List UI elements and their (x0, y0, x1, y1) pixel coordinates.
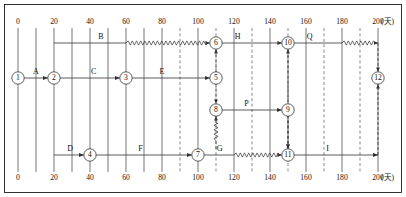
tick-label-bottom-180: 180 (336, 173, 348, 182)
activity-label-Q: Q (307, 32, 313, 41)
tick-label-top-140: 140 (264, 17, 276, 26)
tick-label-top-100: 100 (192, 17, 204, 26)
tick-label-bottom-60: 60 (122, 173, 130, 182)
network-diagram-canvas: 020406080100120140160180200 020406080100… (0, 0, 406, 197)
event-node-10[interactable]: 10 (282, 37, 294, 49)
activity-label-I: I (326, 144, 329, 153)
axis-unit-label-bottom: (天) (381, 173, 395, 182)
axis-tick-labels-bottom: 020406080100120140160180200 (16, 173, 384, 182)
activity-label-B: B (98, 32, 103, 41)
tick-label-top-80: 80 (158, 17, 166, 26)
tick-label-top-0: 0 (16, 17, 20, 26)
event-node-label-1: 1 (16, 73, 20, 82)
float-wave-B (126, 41, 207, 45)
tick-label-bottom-40: 40 (86, 173, 94, 182)
event-node-2[interactable]: 2 (48, 72, 60, 84)
event-node-9[interactable]: 9 (282, 104, 294, 116)
event-node-label-4: 4 (88, 150, 92, 159)
time-scaled-network-diagram: 020406080100120140160180200 020406080100… (0, 0, 406, 197)
event-node-12[interactable]: 12 (372, 72, 384, 84)
event-node-label-8: 8 (214, 105, 218, 114)
activity-label-E: E (160, 67, 165, 76)
float-wave-Q (342, 41, 376, 45)
activity-label-G: G (217, 144, 223, 153)
event-node-label-5: 5 (214, 73, 218, 82)
tick-label-bottom-100: 100 (192, 173, 204, 182)
event-node-label-2: 2 (52, 73, 56, 82)
tick-label-bottom-160: 160 (300, 173, 312, 182)
activity-label-P: P (244, 99, 249, 108)
event-node-label-9: 9 (286, 105, 290, 114)
event-node-6[interactable]: 6 (210, 37, 222, 49)
event-node-3[interactable]: 3 (120, 72, 132, 84)
event-node-1[interactable]: 1 (12, 72, 24, 84)
tick-label-bottom-80: 80 (158, 173, 166, 182)
tick-label-bottom-120: 120 (228, 173, 240, 182)
tick-label-bottom-20: 20 (50, 173, 58, 182)
event-node-label-3: 3 (124, 73, 128, 82)
tick-label-top-20: 20 (50, 17, 58, 26)
event-node-label-7: 7 (196, 150, 200, 159)
activity-label-F: F (138, 144, 143, 153)
activity-label-C: C (91, 67, 96, 76)
tick-label-top-120: 120 (228, 17, 240, 26)
tick-label-top-60: 60 (122, 17, 130, 26)
activity-label-H: H (235, 32, 241, 41)
activity-arrows (24, 41, 378, 157)
tick-label-bottom-0: 0 (16, 173, 20, 182)
event-node-label-11: 11 (284, 150, 292, 159)
event-node-label-12: 12 (374, 73, 382, 82)
dummy-activity-arrows (214, 43, 378, 155)
event-node-5[interactable]: 5 (210, 72, 222, 84)
axis-unit-label-top: (天) (381, 17, 395, 26)
tick-label-top-160: 160 (300, 17, 312, 26)
event-node-8[interactable]: 8 (210, 104, 222, 116)
activity-labels: ABCDEFGHPQI (33, 32, 329, 153)
activity-label-A: A (33, 67, 39, 76)
activity-label-D: D (67, 144, 73, 153)
tick-label-top-180: 180 (336, 17, 348, 26)
tick-label-top-40: 40 (86, 17, 94, 26)
tick-label-bottom-140: 140 (264, 173, 276, 182)
event-node-label-6: 6 (214, 38, 218, 47)
event-node-11[interactable]: 11 (282, 149, 294, 161)
axis-tick-labels-top: 020406080100120140160180200 (16, 17, 384, 26)
event-node-label-10: 10 (284, 38, 292, 47)
float-wave-G (234, 153, 279, 157)
event-node-7[interactable]: 7 (192, 149, 204, 161)
event-node-4[interactable]: 4 (84, 149, 96, 161)
